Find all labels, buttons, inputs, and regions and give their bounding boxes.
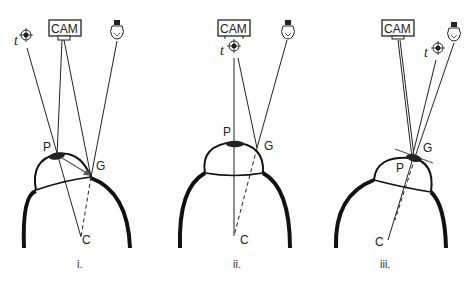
center-label: C <box>240 233 249 247</box>
panel-ii: CAM t P G C ii. <box>180 20 295 270</box>
pupil-label: P <box>223 125 231 139</box>
target-icon <box>19 28 33 42</box>
camera-icon: CAM <box>382 20 414 39</box>
camera-icon: CAM <box>218 20 250 39</box>
pupil-label: P <box>396 161 404 175</box>
target-label: t <box>220 43 225 58</box>
glint-label: G <box>96 159 105 173</box>
eye-tracking-diagram: CAM t P G C i. <box>0 0 475 284</box>
target-icon <box>431 41 445 55</box>
light-bulb-icon <box>448 22 461 41</box>
glint-label: G <box>264 139 273 153</box>
panel-caption: i. <box>77 258 83 270</box>
panel-i: CAM t P G C i. <box>14 20 130 270</box>
target-icon <box>227 39 241 53</box>
panel-caption: ii. <box>233 258 241 270</box>
panel-caption: iii. <box>380 258 390 270</box>
center-label: C <box>82 233 91 247</box>
svg-text:CAM: CAM <box>220 22 247 36</box>
glint-label: G <box>423 141 432 155</box>
svg-text:CAM: CAM <box>51 22 78 36</box>
target-label: t <box>14 33 19 48</box>
center-label: C <box>375 235 384 249</box>
target-label: t <box>424 45 429 60</box>
light-bulb-icon <box>111 20 124 39</box>
pupil-label: P <box>43 140 51 154</box>
panel-iii: CAM t P G C iii. <box>336 20 461 270</box>
svg-text:CAM: CAM <box>384 22 411 36</box>
camera-icon: CAM <box>49 20 81 40</box>
light-bulb-icon <box>282 20 295 39</box>
